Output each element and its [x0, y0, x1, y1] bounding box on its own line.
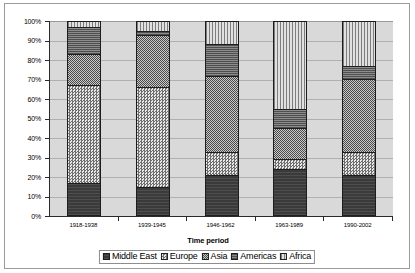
- bar-segment-africa[interactable]: [136, 21, 170, 31]
- bar-segment-africa[interactable]: [273, 21, 307, 109]
- x-axis-tick-mark: [392, 217, 393, 221]
- y-axis-tick-label: 50%: [7, 115, 41, 122]
- legend-label: Americas: [240, 252, 276, 261]
- legend-label: Middle East: [112, 252, 157, 261]
- bar-segment-europe[interactable]: [273, 159, 307, 169]
- y-axis-tick-label: 100%: [7, 18, 41, 25]
- x-axis-tick-mark: [186, 217, 187, 221]
- bar-segment-europe[interactable]: [67, 85, 101, 183]
- y-axis-tick-label: 30%: [7, 154, 41, 161]
- y-axis-tick-label: 70%: [7, 76, 41, 83]
- bar-segment-middle-east[interactable]: [67, 183, 101, 216]
- legend-label: Europe: [170, 252, 198, 261]
- plot-area: [49, 21, 393, 217]
- legend-item-middle-east[interactable]: Middle East: [103, 252, 157, 261]
- legend-swatch-icon: [161, 253, 168, 260]
- legend-swatch-icon: [103, 253, 110, 260]
- bar-segment-americas[interactable]: [205, 44, 239, 75]
- bar-segment-middle-east[interactable]: [342, 175, 376, 216]
- legend-label: Africa: [289, 252, 311, 261]
- x-axis-tick-mark: [323, 217, 324, 221]
- y-axis-tick-label: 0%: [7, 213, 41, 220]
- x-axis-tick-label: 1939-1945: [118, 222, 187, 229]
- y-axis-tick-label: 10%: [7, 193, 41, 200]
- bar-segment-middle-east[interactable]: [136, 187, 170, 216]
- legend-item-asia[interactable]: Asia: [202, 252, 228, 261]
- bar-segment-americas[interactable]: [342, 66, 376, 80]
- x-axis-tick-label: 1946-1962: [186, 222, 255, 229]
- y-axis-tick-label: 40%: [7, 135, 41, 142]
- legend-swatch-icon: [280, 253, 287, 260]
- bar-1990-2002[interactable]: [342, 21, 376, 216]
- bar-1963-1989[interactable]: [273, 21, 307, 216]
- legend-label: Asia: [211, 252, 228, 261]
- x-axis-tick-mark: [255, 217, 256, 221]
- legend-swatch-icon: [231, 253, 238, 260]
- x-axis-tick-mark: [118, 217, 119, 221]
- x-axis-title: Time period: [5, 236, 411, 245]
- bar-segment-middle-east[interactable]: [273, 169, 307, 216]
- bar-segment-asia[interactable]: [205, 76, 239, 152]
- x-axis-tick-label: 1918-1938: [49, 222, 118, 229]
- y-axis-tick-label: 60%: [7, 96, 41, 103]
- legend-item-europe[interactable]: Europe: [161, 252, 198, 261]
- chart-root: 0%10%20%30%40%50%60%70%80%90%100% 1918-1…: [0, 0, 415, 273]
- bar-1939-1945[interactable]: [136, 21, 170, 216]
- bar-segment-asia[interactable]: [136, 35, 170, 88]
- bar-segment-europe[interactable]: [136, 87, 170, 186]
- chart-frame: 0%10%20%30%40%50%60%70%80%90%100% 1918-1…: [4, 3, 410, 269]
- y-axis-tick-label: 20%: [7, 174, 41, 181]
- bar-1946-1962[interactable]: [205, 21, 239, 216]
- bar-segment-europe[interactable]: [205, 152, 239, 175]
- chart-legend: Middle EastEuropeAsiaAmericasAfrica: [99, 250, 315, 264]
- bar-segment-middle-east[interactable]: [205, 175, 239, 216]
- legend-item-americas[interactable]: Americas: [231, 252, 276, 261]
- bar-segment-asia[interactable]: [342, 79, 376, 151]
- bar-segment-africa[interactable]: [342, 21, 376, 66]
- bar-segment-europe[interactable]: [342, 152, 376, 175]
- bar-1918-1938[interactable]: [67, 21, 101, 216]
- bar-segment-africa[interactable]: [205, 21, 239, 44]
- bar-segment-asia[interactable]: [273, 128, 307, 159]
- x-axis-tick-label: 1963-1989: [255, 222, 324, 229]
- bar-segment-asia[interactable]: [67, 54, 101, 85]
- legend-swatch-icon: [202, 253, 209, 260]
- bar-segment-americas[interactable]: [67, 27, 101, 54]
- y-axis-tick-label: 80%: [7, 57, 41, 64]
- bar-segment-americas[interactable]: [273, 109, 307, 129]
- legend-item-africa[interactable]: Africa: [280, 252, 311, 261]
- y-axis-tick-label: 90%: [7, 37, 41, 44]
- x-axis-tick-label: 1990-2002: [323, 222, 392, 229]
